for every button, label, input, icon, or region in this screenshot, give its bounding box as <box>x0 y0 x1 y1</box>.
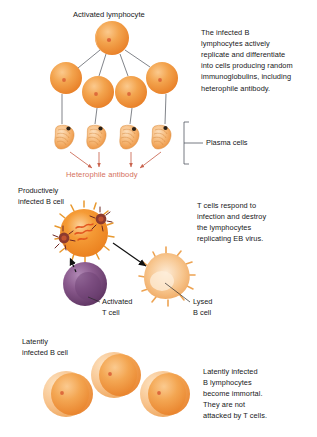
heterophile-antibody-arrows <box>70 152 161 168</box>
plasma-cells-bracket <box>184 122 203 164</box>
cell-activated-lymphocyte <box>95 21 129 55</box>
paragraph-t-cells-respond: T cells respond to infection and destroy… <box>197 200 313 244</box>
label-productively-infected-b-cell: Productively infected B cell <box>18 186 64 207</box>
paragraph-infected-b-lymphocytes: The infected B lymphocytes actively repl… <box>201 27 317 94</box>
label-plasma-cells: Plasma cells <box>206 138 247 149</box>
cell-activated-t-cell <box>63 262 107 306</box>
lineage-connectors-plasma <box>62 94 166 124</box>
cell-latently-infected-b-cells <box>43 352 190 417</box>
label-activated-t-cell: Activated T cell <box>102 297 132 318</box>
arrow-b-cell-to-lysed <box>113 243 146 266</box>
figure-canvas: Activated lymphocyte The infected B lymp… <box>0 0 317 437</box>
label-lysed-b-cell: Lysed B cell <box>193 297 212 318</box>
cell-plasma-cells <box>55 125 171 149</box>
label-latently-infected-b-cell: Latently infected B cell <box>22 337 68 358</box>
cell-lysed-b-cell <box>139 247 195 306</box>
label-heterophile-antibody: Heterophile antibody <box>66 170 138 179</box>
paragraph-latently-infected: Latently infected B lymphocytes become i… <box>203 366 317 422</box>
label-activated-lymphocyte: Activated lymphocyte <box>73 10 145 19</box>
cell-daughter-lymphocytes <box>50 62 178 108</box>
cell-productively-infected-b-cell <box>53 201 114 263</box>
